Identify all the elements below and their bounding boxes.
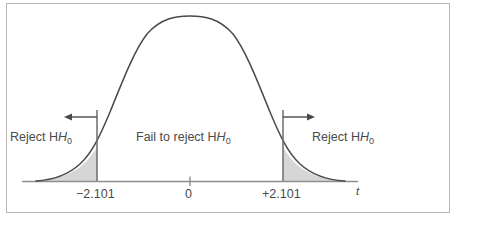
fail-to-reject-subscript: 0 <box>226 136 231 146</box>
right-reject-region-label: Reject HH0 <box>312 131 374 146</box>
fail-to-reject-text: Fail to reject H <box>136 130 217 144</box>
tick-label-zero: 0 <box>185 188 192 201</box>
right-direction-arrow <box>283 114 315 121</box>
t-distribution-curve <box>36 16 345 181</box>
tick-label-positive-critical: +2.101 <box>262 188 301 201</box>
left-direction-arrow <box>64 114 97 121</box>
fail-to-reject-hypothesis-symbol: H0 <box>217 130 231 144</box>
x-axis-label: t <box>356 186 359 198</box>
right-reject-text: Reject H <box>312 130 360 144</box>
left-rejection-shaded-area <box>36 147 97 181</box>
right-rejection-shaded-area <box>283 147 345 181</box>
left-reject-text: Reject H <box>10 130 58 144</box>
right-reject-subscript: 0 <box>369 136 374 146</box>
left-reject-hypothesis-symbol: H0 <box>58 130 72 144</box>
distribution-plot <box>0 0 480 230</box>
left-reject-subscript: 0 <box>67 136 72 146</box>
tick-label-negative-critical: −2.101 <box>76 188 115 201</box>
left-reject-region-label: Reject HH0 <box>10 131 72 146</box>
fail-to-reject-region-label: Fail to reject HH0 <box>136 131 231 146</box>
right-reject-hypothesis-symbol: H0 <box>360 130 374 144</box>
figure-root: Reject HH0 Fail to reject HH0 Reject HH0… <box>0 0 480 230</box>
